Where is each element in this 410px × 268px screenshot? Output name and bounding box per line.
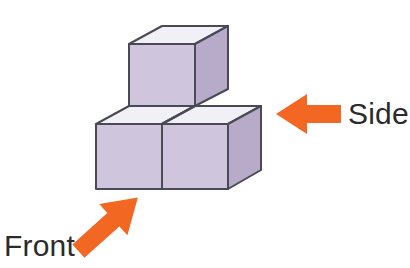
cube-group — [96, 26, 261, 189]
right-cube-left-face — [162, 124, 228, 189]
right-cube — [162, 106, 261, 189]
front-direction-arrow — [64, 182, 152, 267]
figure-container: Side Front — [0, 0, 410, 268]
back-upper-cube — [129, 26, 228, 106]
side-direction-arrow — [276, 94, 341, 134]
front-label: Front — [4, 231, 75, 261]
side-label: Side — [348, 99, 409, 129]
cube-figure-illustration — [0, 0, 410, 268]
back-upper-cube-left-face — [129, 44, 195, 106]
front-left-cube-left-face — [96, 124, 162, 189]
